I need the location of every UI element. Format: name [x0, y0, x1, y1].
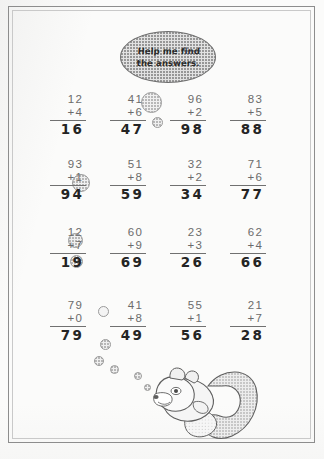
- problem-addend1: 55: [160, 299, 206, 312]
- problem-addend2: +8: [100, 312, 146, 325]
- problem-addend1: 41: [100, 93, 146, 106]
- problem-addend1: 23: [160, 226, 206, 239]
- problem-r4c1: 79+079: [40, 299, 86, 343]
- problem-r4c3: 55+156: [160, 299, 206, 343]
- problem-answer[interactable]: 16: [40, 122, 86, 137]
- squirrel-pupil: [174, 389, 178, 393]
- problem-answer[interactable]: 28: [220, 328, 266, 343]
- problem-answer[interactable]: 88: [220, 122, 266, 137]
- problem-r3c4: 62+466: [220, 226, 266, 270]
- problem-r3c3: 23+326: [160, 226, 206, 270]
- worksheet-page: Help me find the answers. 12+41641+64796…: [0, 0, 324, 459]
- problem-addend2: +0: [40, 312, 86, 325]
- problem-answer[interactable]: 66: [220, 255, 266, 270]
- problem-r2c1: 93+194: [40, 158, 86, 202]
- problem-r3c2: 60+969: [100, 226, 146, 270]
- problem-r1c1: 12+416: [40, 93, 86, 137]
- problem-answer[interactable]: 19: [40, 255, 86, 270]
- problem-answer[interactable]: 94: [40, 187, 86, 202]
- problem-addend1: 12: [40, 93, 86, 106]
- problem-r3c1: 12+719: [40, 226, 86, 270]
- problem-addend2: +7: [220, 312, 266, 325]
- problem-addend1: 60: [100, 226, 146, 239]
- problem-addend2: +6: [220, 171, 266, 184]
- problem-addend1: 62: [220, 226, 266, 239]
- problem-r4c2: 41+849: [100, 299, 146, 343]
- problem-addend1: 96: [160, 93, 206, 106]
- problem-answer[interactable]: 56: [160, 328, 206, 343]
- problem-addend2: +1: [160, 312, 206, 325]
- problem-r2c2: 51+859: [100, 158, 146, 202]
- problem-answer[interactable]: 49: [100, 328, 146, 343]
- problem-addend2: +2: [160, 106, 206, 119]
- problem-answer[interactable]: 77: [220, 187, 266, 202]
- problem-answer[interactable]: 69: [100, 255, 146, 270]
- problem-addend2: +4: [220, 239, 266, 252]
- problem-addend1: 41: [100, 299, 146, 312]
- problem-addend2: +5: [220, 106, 266, 119]
- problem-addend2: +8: [100, 171, 146, 184]
- problem-answer[interactable]: 79: [40, 328, 86, 343]
- problem-addend2: +6: [100, 106, 146, 119]
- problem-addend2: +3: [160, 239, 206, 252]
- problem-addend2: +7: [40, 239, 86, 252]
- problem-addend1: 71: [220, 158, 266, 171]
- problem-answer[interactable]: 98: [160, 122, 206, 137]
- problem-answer[interactable]: 59: [100, 187, 146, 202]
- problem-addend1: 79: [40, 299, 86, 312]
- problem-addend1: 93: [40, 158, 86, 171]
- problem-answer[interactable]: 26: [160, 255, 206, 270]
- problem-addend2: +9: [100, 239, 146, 252]
- problem-addend2: +2: [160, 171, 206, 184]
- problem-addend2: +4: [40, 106, 86, 119]
- problem-addend1: 83: [220, 93, 266, 106]
- squirrel-nose: [153, 395, 158, 399]
- problem-r4c4: 21+728: [220, 299, 266, 343]
- problem-addend1: 12: [40, 226, 86, 239]
- problem-addend1: 21: [220, 299, 266, 312]
- squirrel-ear-left: [170, 368, 185, 380]
- problem-addend2: +1: [40, 171, 86, 184]
- problem-answer[interactable]: 34: [160, 187, 206, 202]
- problem-r1c2: 41+647: [100, 93, 146, 137]
- problem-r2c3: 32+234: [160, 158, 206, 202]
- squirrel-illustration: [150, 358, 262, 444]
- problem-r1c4: 83+588: [220, 93, 266, 137]
- problem-r1c3: 96+298: [160, 93, 206, 137]
- problem-addend1: 51: [100, 158, 146, 171]
- problem-r2c4: 71+677: [220, 158, 266, 202]
- problem-addend1: 32: [160, 158, 206, 171]
- problem-answer[interactable]: 47: [100, 122, 146, 137]
